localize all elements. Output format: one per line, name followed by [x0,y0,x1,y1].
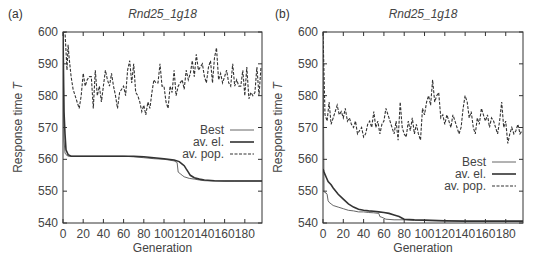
y-tick-label: 550 [38,184,58,198]
y-tick-label: 580 [38,89,58,103]
x-tick-label: 140 [455,227,475,241]
figure: (a)Rnd25_1g18540550560570580590600020406… [0,0,541,270]
x-tick-label: 20 [337,227,351,241]
legend: Bestav. el.av. pop. [182,123,254,161]
y-axis-label: Response time T [271,80,285,172]
y-tick-label: 560 [298,152,318,166]
x-tick-label: 100 [415,227,435,241]
y-tick-label: 570 [38,121,58,135]
y-tick-label: 540 [298,216,318,230]
legend: Bestav. el.av. pop. [444,155,516,193]
x-tick-label: 40 [357,227,371,241]
legend-label: av. pop. [444,179,486,193]
x-tick-label: 0 [320,227,327,241]
y-tick-label: 560 [38,152,58,166]
y-tick-label: 540 [38,216,58,230]
series-av-pop [63,32,261,115]
x-tick-label: 160 [215,227,235,241]
y-axis-label: Response time T [11,80,25,172]
panel-label: (b) [275,7,290,21]
chart-title: Rnd25_1g18 [389,7,458,21]
x-tick-label: 40 [97,227,111,241]
y-tick-label: 600 [38,25,58,39]
x-tick-label: 180 [496,227,516,241]
y-tick-label: 590 [298,57,318,71]
x-tick-label: 80 [137,227,151,241]
x-tick-label: 100 [154,227,174,241]
series-av-el [323,169,523,221]
x-tick-label: 60 [377,227,391,241]
plot-panel-a: (a)Rnd25_1g18540550560570580590600020406… [8,7,262,255]
chart-title: Rnd25_1g18 [128,7,197,21]
x-tick-label: 140 [194,227,214,241]
legend-label: av. pop. [182,147,224,161]
x-tick-label: 120 [435,227,455,241]
x-tick-label: 80 [398,227,412,241]
chart-canvas: (a)Rnd25_1g18540550560570580590600020406… [0,0,541,270]
series-av-pop [323,32,522,143]
x-tick-label: 0 [60,227,67,241]
x-tick-label: 180 [235,227,255,241]
x-tick-label: 60 [117,227,131,241]
x-axis-label: Generation [133,241,192,255]
y-tick-label: 550 [298,184,318,198]
x-axis-label: Generation [393,241,452,255]
y-tick-label: 580 [298,89,318,103]
panel-label: (a) [8,7,23,21]
y-tick-label: 600 [298,25,318,39]
x-tick-label: 20 [77,227,91,241]
x-tick-label: 160 [475,227,495,241]
y-tick-label: 570 [298,121,318,135]
plot-frame [63,32,262,223]
x-tick-label: 120 [174,227,194,241]
plot-panel-b: (b)Rnd25_1g18540550560570580590600020406… [271,7,523,255]
y-tick-label: 590 [38,57,58,71]
